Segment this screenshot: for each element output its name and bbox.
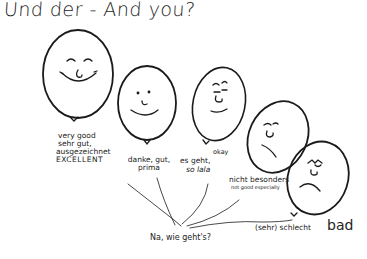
label-excellent-en: EXCELLENT: [56, 156, 103, 164]
balloon-illustration: [0, 0, 367, 259]
label-bad-en: bad: [327, 218, 353, 232]
balloon-not-good-icon: [236, 91, 320, 183]
question-label: Na, wie geht's?: [150, 234, 211, 242]
balloon-very-good-icon: [43, 30, 113, 121]
balloon-bad-icon: [278, 134, 358, 223]
label-okay-en: okay: [213, 148, 228, 156]
label-sehr-schlecht: (sehr) schlecht: [255, 224, 311, 232]
label-not-especially-en: not good especially: [231, 184, 280, 190]
label-es-geht: es geht,: [180, 157, 210, 165]
balloon-okay-icon: [186, 62, 252, 145]
balloon-good-icon: [118, 66, 176, 144]
label-prima: prima: [122, 164, 176, 172]
label-so-lala: so lala: [186, 166, 210, 174]
label-nicht-besonders: nicht besonders: [229, 176, 289, 184]
